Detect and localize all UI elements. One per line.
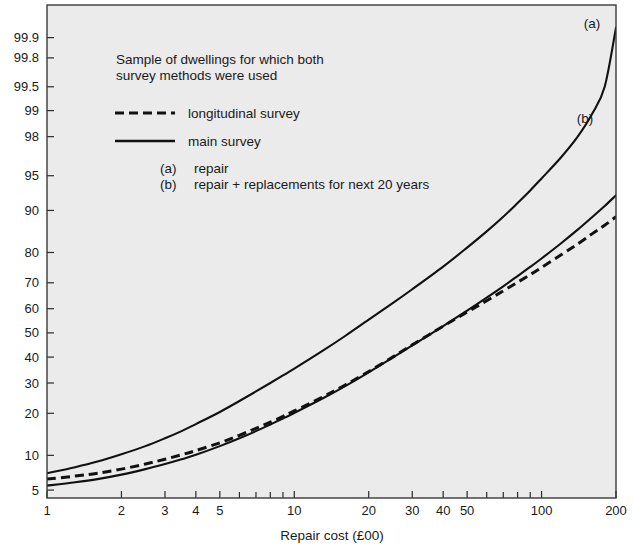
curve-tag-b: (b) [577,111,594,126]
x-tick-label: 5 [216,503,223,518]
y-tick-label: 80 [25,245,39,260]
y-tick-label: 40 [25,350,39,365]
y-tick-label: 30 [25,376,39,391]
y-tick-label: 95 [25,168,39,183]
x-tick-label: 40 [436,503,450,518]
legend-label-main: main survey [188,134,261,149]
y-tick-label: 60 [25,301,39,316]
x-tick-label: 100 [531,503,553,518]
y-tick-label: 10 [25,448,39,463]
curve-key-label-a: repair [194,161,229,176]
y-tick-label: 20 [25,406,39,421]
chart-figure: 510203040506070809095989999.599.899.9 12… [0,0,633,549]
curve-key-tag-b: (b) [160,177,177,192]
x-tick-label: 50 [460,503,474,518]
x-tick-label: 1 [43,503,50,518]
curve-key-label-b: repair + replacements for next 20 years [194,177,429,192]
y-tick-label: 99.5 [14,79,39,94]
y-tick-label: 90 [25,203,39,218]
x-axis-title: Repair cost (£00) [280,528,384,543]
x-tick-label: 30 [405,503,419,518]
x-tick-label: 10 [287,503,301,518]
y-tick-label: 99.8 [14,50,39,65]
annotation-line-1: Sample of dwellings for which both [116,52,324,67]
y-tick-label: 98 [25,129,39,144]
y-tick-label: 70 [25,275,39,290]
y-tick-label: 50 [25,325,39,340]
legend-label-longitudinal: longitudinal survey [188,106,300,121]
x-tick-label: 3 [161,503,168,518]
x-tick-label: 4 [192,503,199,518]
x-tick-label: 2 [118,503,125,518]
probability-plot-svg: 510203040506070809095989999.599.899.9 12… [0,0,633,549]
x-tick-label: 20 [361,503,375,518]
curve-key-tag-a: (a) [160,161,177,176]
y-tick-label: 99.9 [14,30,39,45]
curve-tag-a: (a) [584,16,601,31]
y-tick-label: 5 [32,483,39,498]
y-tick-label: 99 [25,103,39,118]
annotation-line-2: survey methods were used [116,68,277,83]
x-tick-label: 200 [605,503,627,518]
